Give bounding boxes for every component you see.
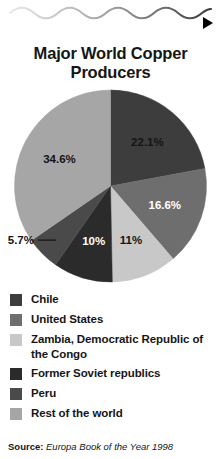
pie-slice-label: 22.1% [131, 136, 164, 148]
legend-item: Peru [0, 386, 221, 402]
legend-item: Rest of the world [0, 406, 221, 422]
pie-slice-group [14, 90, 206, 282]
pie-slice-label: 34.6% [43, 153, 76, 165]
legend-item-label: United States [31, 312, 103, 327]
legend-color-swatch [10, 294, 22, 306]
right-triangle-marker [203, 17, 213, 29]
pie-slice-label: 10% [82, 235, 105, 247]
legend-item: United States [0, 312, 221, 328]
legend-color-swatch [10, 388, 22, 400]
legend-item-label: Former Soviet republics [31, 366, 160, 381]
legend-item-label: Chile [31, 292, 59, 307]
pie-chart-svg: 22.1%16.6%11%10%5.7%34.6% [0, 88, 221, 288]
legend-item: Chile [0, 292, 221, 308]
legend-item-label: Peru [31, 386, 56, 401]
legend-item-label: Zambia, Democratic Republic of the Congo [31, 332, 221, 362]
source-citation: Europa Book of the Year 1998 [46, 441, 173, 452]
legend-item: Zambia, Democratic Republic of the Congo [0, 332, 221, 362]
legend-color-swatch [10, 408, 22, 420]
pie-slice-label-external: 5.7% [8, 234, 34, 246]
legend-color-swatch [10, 314, 22, 326]
source-attribution: Source: Europa Book of the Year 1998 [8, 441, 173, 452]
legend-item-label: Rest of the world [31, 406, 123, 421]
chart-legend: ChileUnited StatesZambia, Democratic Rep… [0, 292, 221, 426]
top-decoration [0, 0, 221, 34]
pie-slice-label: 11% [120, 234, 142, 246]
legend-item: Former Soviet republics [0, 366, 221, 382]
pie-slice-label: 16.6% [148, 199, 181, 211]
pie-chart: 22.1%16.6%11%10%5.7%34.6% [0, 88, 221, 288]
legend-color-swatch [10, 368, 22, 380]
wavy-rule [8, 4, 213, 22]
legend-color-swatch [10, 334, 22, 346]
source-label: Source: [8, 441, 43, 452]
page-title: Major World Copper Producers [10, 44, 211, 82]
